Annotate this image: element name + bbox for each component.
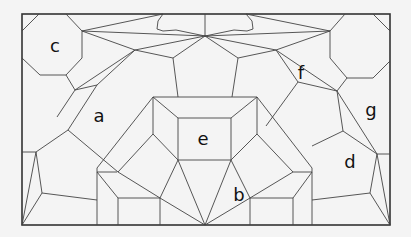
label-g: g [365, 99, 376, 120]
line-work [22, 14, 390, 225]
label-f: f [298, 62, 305, 83]
label-e: e [197, 128, 208, 149]
label-d: d [344, 151, 355, 172]
outer-frame [22, 14, 390, 225]
label-c: c [50, 35, 60, 56]
label-a: a [93, 105, 104, 126]
piece-labels: a b c d e f g [50, 35, 377, 205]
diagram-canvas: a b c d e f g [0, 0, 411, 237]
tiling-diagram: a b c d e f g [0, 0, 411, 237]
label-b: b [233, 184, 244, 205]
